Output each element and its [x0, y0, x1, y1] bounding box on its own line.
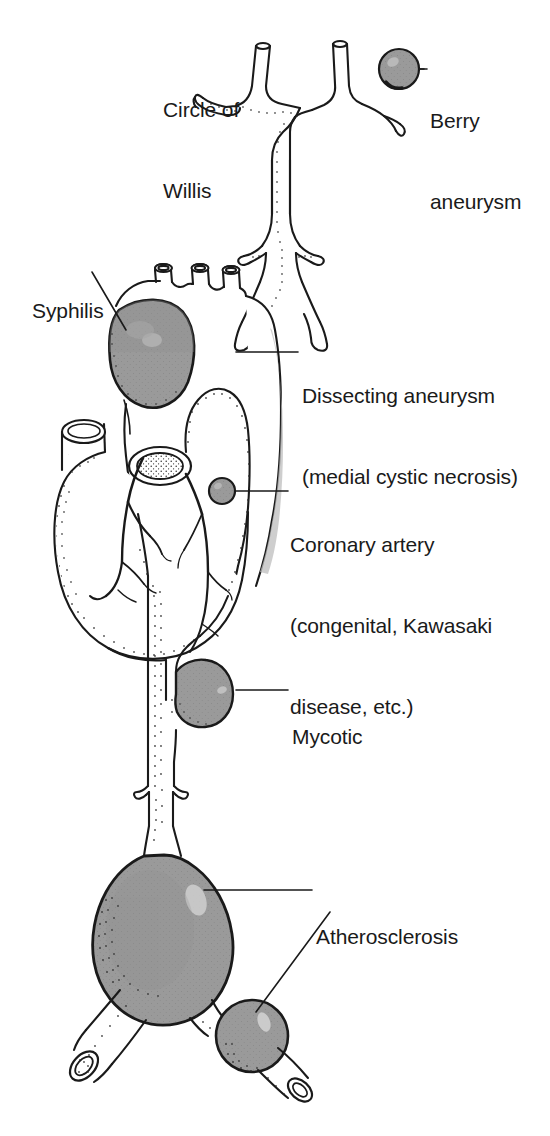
label-syphilis: Syphilis — [32, 246, 104, 376]
label-circle-of-willis-line2: Willis — [163, 177, 239, 204]
aneurysm-diagram: Circle of Willis Berry aneurysm Syphilis… — [0, 0, 550, 1136]
label-berry-aneurysm-line1: Berry — [430, 107, 521, 134]
label-circle-of-willis-line1: Circle of — [163, 96, 239, 123]
label-syphilis-line1: Syphilis — [32, 298, 104, 324]
label-atherosclerosis-line1: Atherosclerosis — [316, 924, 458, 950]
iliac-artery-aneurysm — [216, 1000, 316, 1106]
label-coronary-artery-line2: (congenital, Kawasaki — [290, 612, 492, 639]
coronary-artery-aneurysm — [209, 478, 235, 504]
label-atherosclerosis: Atherosclerosis — [316, 872, 458, 1002]
label-dissecting-aneurysm-line1: Dissecting aneurysm — [302, 382, 518, 409]
aorta-and-heart — [54, 264, 316, 1106]
berry-aneurysm-sac — [379, 49, 419, 89]
label-mycotic: Mycotic — [292, 672, 362, 802]
label-circle-of-willis: Circle of Willis — [163, 42, 239, 258]
label-berry-aneurysm-line2: aneurysm — [430, 188, 521, 215]
label-berry-aneurysm: Berry aneurysm — [430, 53, 521, 269]
label-mycotic-line1: Mycotic — [292, 724, 362, 750]
mycotic-aneurysm — [175, 660, 233, 727]
label-coronary-artery-line1: Coronary artery — [290, 531, 492, 558]
